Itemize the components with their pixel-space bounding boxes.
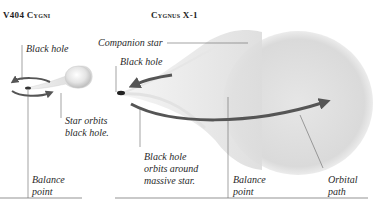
- cygnus-black-hole-orbits-label: Black hole orbits around massive star.: [144, 151, 198, 187]
- v404-black-hole-label: Black hole: [26, 43, 68, 55]
- cygnus-orbital-path-label: Orbital path: [328, 174, 357, 198]
- v404-cygni-title: V404 Cygni: [3, 10, 50, 20]
- v404-orbit-arrow-bottom: [12, 91, 50, 96]
- cygnus-companion-star-label: Companion star: [98, 37, 163, 49]
- v404-balance-point-label: Balance point: [32, 174, 65, 198]
- cygnus-balance-point-label: Balance point: [233, 174, 266, 198]
- cygnus-black-hole: [117, 91, 125, 95]
- v404-star-orbits-label: Star orbits black hole.: [65, 115, 109, 139]
- v404-orbit-arrow-top: [14, 78, 50, 82]
- v404-black-hole: [25, 86, 31, 89]
- cygnus-black-hole-label: Black hole: [120, 56, 162, 68]
- cygnus-x1-title: Cygnus X-1: [151, 10, 198, 20]
